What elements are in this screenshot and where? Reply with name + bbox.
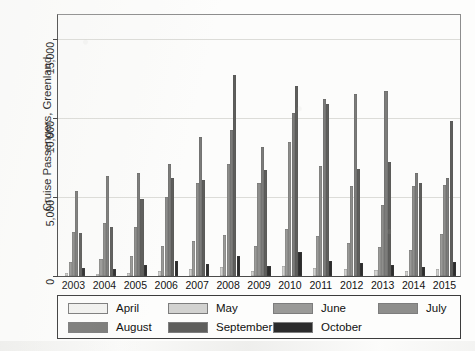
legend-item-july[interactable]: July <box>378 299 446 317</box>
cruise-passengers-bar-chart: Cruise Passengers, Greenland 05,00010,00… <box>0 0 475 351</box>
bar-group: 2010 <box>274 15 305 276</box>
legend-item-october[interactable]: October <box>273 318 362 336</box>
x-axis-tick-label: 2005 <box>120 279 151 291</box>
x-axis-tick-label: 2009 <box>244 279 275 291</box>
legend-swatch <box>68 303 108 314</box>
scan-smudge <box>0 341 475 351</box>
legend-item-june[interactable]: June <box>273 299 346 317</box>
bar-group: 2014 <box>398 15 429 276</box>
bar <box>267 266 270 276</box>
bar <box>175 261 178 276</box>
bar-group: 2012 <box>336 15 367 276</box>
legend-swatch <box>68 322 108 333</box>
bar <box>388 162 391 276</box>
x-axis-tick-label: 2013 <box>367 279 398 291</box>
bar <box>113 269 116 276</box>
legend-item-september[interactable]: September <box>168 318 272 336</box>
x-axis-tick-label: 2008 <box>213 279 244 291</box>
legend-row-bottom: AugustSeptemberOctober <box>58 318 460 336</box>
legend-label: June <box>321 302 346 314</box>
bar-group: 2009 <box>244 15 275 276</box>
bar <box>298 252 301 276</box>
legend-item-august[interactable]: August <box>68 318 152 336</box>
bar-group: 2004 <box>89 15 120 276</box>
legend-row-top: AprilMayJuneJuly <box>58 299 460 317</box>
legend-label: September <box>216 321 272 333</box>
bar-group: 2003 <box>58 15 89 276</box>
bar-group: 2008 <box>213 15 244 276</box>
x-axis-tick-label: 2003 <box>58 279 89 291</box>
legend-swatch <box>378 303 418 314</box>
bar <box>295 86 298 276</box>
bar <box>82 268 85 276</box>
bar <box>391 265 394 276</box>
bar-group: 2011 <box>305 15 336 276</box>
bar <box>422 267 425 276</box>
x-axis-tick-label: 2004 <box>89 279 120 291</box>
bar-group: 2013 <box>367 15 398 276</box>
bar-group: 2005 <box>120 15 151 276</box>
bar <box>237 256 240 276</box>
x-axis-tick-label: 2014 <box>398 279 429 291</box>
chart-legend: AprilMayJuneJuly AugustSeptemberOctober <box>57 295 461 339</box>
legend-label: April <box>116 302 139 314</box>
bar <box>233 75 236 276</box>
plot-area: 05,00010,00015,0002003200420052006200720… <box>57 14 461 277</box>
legend-label: July <box>426 302 446 314</box>
bar-group: 2007 <box>182 15 213 276</box>
plot-inner: 05,00010,00015,0002003200420052006200720… <box>58 15 460 276</box>
bar <box>264 170 267 276</box>
bar-group: 2006 <box>151 15 182 276</box>
legend-item-april[interactable]: April <box>68 299 139 317</box>
bar <box>357 169 360 276</box>
bar <box>360 263 363 276</box>
bar-group: 2015 <box>429 15 460 276</box>
legend-label: August <box>116 321 152 333</box>
bar <box>202 180 205 276</box>
bar <box>419 183 422 276</box>
legend-swatch <box>273 322 313 333</box>
bar <box>453 262 456 276</box>
bar <box>326 104 329 276</box>
bar <box>450 121 453 276</box>
bar <box>206 264 209 276</box>
x-axis-tick-label: 2007 <box>182 279 213 291</box>
legend-label: May <box>216 302 238 314</box>
x-axis-tick-label: 2010 <box>274 279 305 291</box>
x-axis-tick-label: 2012 <box>336 279 367 291</box>
legend-swatch <box>273 303 313 314</box>
legend-label: October <box>321 321 362 333</box>
legend-swatch <box>168 303 208 314</box>
bar <box>144 265 147 276</box>
y-axis-tick <box>53 276 58 277</box>
x-axis-tick-label: 2011 <box>305 279 336 291</box>
legend-swatch <box>168 322 208 333</box>
bar <box>329 261 332 277</box>
x-axis-tick-label: 2015 <box>429 279 460 291</box>
x-axis-tick-label: 2006 <box>151 279 182 291</box>
legend-item-may[interactable]: May <box>168 299 238 317</box>
